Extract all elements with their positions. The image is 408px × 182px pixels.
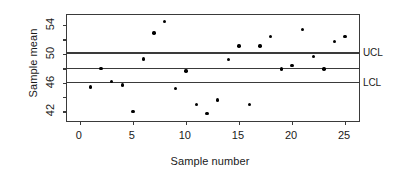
data-point: [121, 83, 124, 86]
data-point: [258, 44, 261, 47]
y-tick-label-54: 54: [38, 17, 62, 31]
data-point: [269, 35, 272, 38]
y-tick-42: [63, 111, 67, 112]
x-tick-5: [133, 121, 134, 125]
data-point: [227, 58, 230, 61]
y-tick-54: [63, 25, 67, 26]
data-point: [237, 44, 240, 47]
limit-line-cl: [67, 68, 359, 70]
x-tick-label-20: 20: [278, 129, 304, 142]
data-point: [184, 69, 187, 72]
x-tick-label-5: 5: [119, 129, 145, 142]
x-tick-20: [292, 121, 293, 125]
data-point: [216, 98, 219, 101]
data-point: [322, 67, 325, 70]
plot-area: [66, 14, 360, 122]
data-point: [99, 67, 102, 70]
limit-label-lcl: LCL: [363, 77, 381, 88]
data-point: [301, 28, 304, 31]
data-point: [290, 64, 293, 67]
data-point: [174, 87, 177, 90]
y-tick-52: [63, 39, 67, 40]
x-tick-label-10: 10: [172, 129, 198, 142]
x-tick-label-25: 25: [331, 129, 357, 142]
y-tick-44: [63, 97, 67, 98]
data-point: [205, 112, 208, 115]
x-tick-15: [239, 121, 240, 125]
data-point: [163, 20, 166, 23]
x-tick-0: [80, 121, 81, 125]
limit-label-ucl: UCL: [363, 47, 383, 58]
data-point: [195, 103, 198, 106]
data-point: [280, 67, 283, 70]
limit-line-ucl: [67, 52, 359, 54]
x-tick-10: [186, 121, 187, 125]
y-tick-label-50: 50: [38, 46, 62, 60]
data-point: [248, 103, 251, 106]
x-tick-25: [345, 121, 346, 125]
data-point: [152, 31, 155, 34]
y-tick-50: [63, 54, 67, 55]
data-point: [312, 55, 315, 58]
y-axis-tick-labels: 42465054: [36, 0, 62, 182]
control-chart: Sample mean 42465054 0510152025 UCLLCL S…: [0, 0, 408, 182]
data-point: [343, 35, 346, 38]
data-point: [131, 110, 134, 113]
y-tick-label-42: 42: [38, 103, 62, 117]
data-point: [333, 40, 336, 43]
x-tick-label-0: 0: [66, 129, 92, 142]
x-tick-label-15: 15: [225, 129, 251, 142]
x-axis-title: Sample number: [60, 155, 360, 167]
data-point: [142, 57, 145, 60]
data-point: [89, 85, 92, 88]
y-tick-label-46: 46: [38, 75, 62, 89]
